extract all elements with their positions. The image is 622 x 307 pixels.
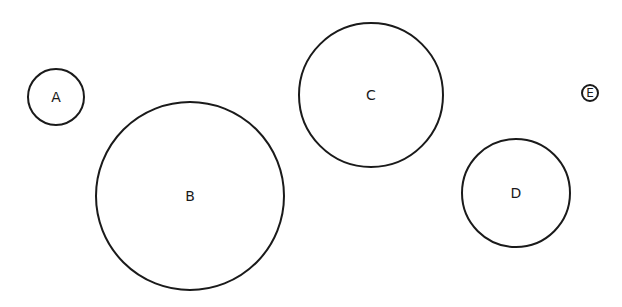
circle-a: A: [27, 68, 85, 126]
circle-e-label: E: [586, 87, 594, 99]
diagram-canvas: A B C D E: [0, 0, 622, 307]
circle-c-label: C: [366, 88, 376, 102]
circle-b: B: [95, 101, 285, 291]
circle-c: C: [298, 22, 444, 168]
circle-d-label: D: [511, 186, 522, 200]
circle-e: E: [581, 84, 599, 102]
circle-a-label: A: [51, 90, 61, 104]
circle-d: D: [461, 138, 571, 248]
circle-b-label: B: [185, 189, 195, 203]
